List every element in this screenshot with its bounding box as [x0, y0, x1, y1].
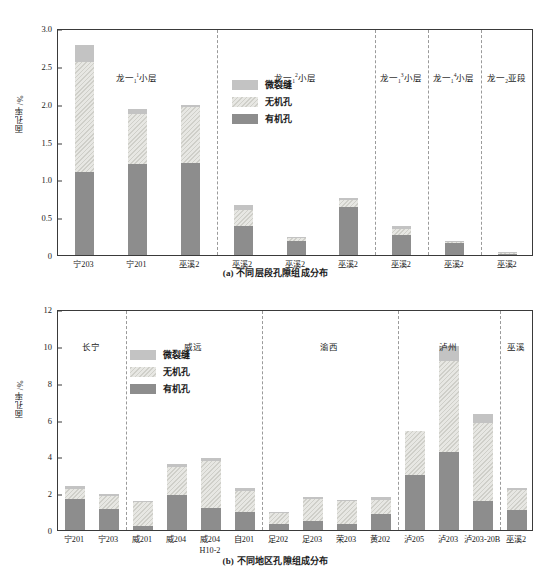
bar-segment-organic	[303, 521, 323, 530]
x-tick-label-line1: 黄202	[370, 535, 390, 544]
group-label-suffix: 亚段	[508, 73, 526, 83]
bar-segment-organic	[498, 254, 517, 256]
bar-巫溪2	[234, 205, 253, 255]
bar-宁203	[75, 45, 94, 255]
bar-segment-microfracture	[371, 497, 391, 500]
x-tick-label: 荣203	[336, 535, 356, 546]
bar-segment-inorganic	[371, 500, 391, 515]
figure-b: 面孔率/% 024681012 (b) 不同地区孔隙组成分布 宁201宁203威…	[0, 292, 551, 586]
y-tick-label: 12	[44, 305, 58, 315]
bar-segment-inorganic	[498, 253, 517, 254]
group-label-suffix: 小层	[139, 73, 157, 83]
group-label: 龙一14小层	[433, 71, 475, 83]
y-tick-label: 10	[44, 342, 58, 352]
bar-威204 H10-2	[201, 458, 221, 530]
bar-segment-microfracture	[133, 501, 153, 502]
bar-segment-microfracture	[507, 488, 527, 491]
group-label-subscript: 1	[134, 78, 137, 84]
x-tick-label: 巫溪2	[285, 260, 305, 271]
x-tick-label-line1: 自201	[234, 535, 254, 544]
bar-威201	[133, 501, 153, 530]
bar-segment-inorganic	[269, 513, 289, 524]
bar-巫溪2	[287, 237, 306, 255]
bar-segment-microfracture	[337, 500, 357, 502]
bar-segment-microfracture	[128, 109, 147, 114]
x-tick-label: 巫溪2	[444, 260, 464, 271]
bar-segment-inorganic	[201, 461, 221, 508]
x-tick-label: 黄202	[370, 535, 390, 546]
bar-segment-organic	[128, 164, 147, 255]
group-divider	[481, 30, 482, 255]
bar-巫溪2	[498, 252, 517, 255]
x-tick-label-line1: 泸203	[438, 535, 458, 544]
y-tick-mark	[58, 219, 62, 220]
x-tick-label: 巫溪2	[232, 260, 252, 271]
bar-segment-inorganic	[65, 489, 85, 499]
group-divider	[398, 311, 399, 530]
group-label-superscript: 3	[401, 72, 404, 78]
y-tick-label: 0	[48, 251, 57, 261]
group-label-subscript: 1	[451, 78, 454, 84]
bar-segment-microfracture	[234, 205, 253, 210]
y-tick-mark	[58, 30, 62, 31]
x-tick-label-line1: 足202	[268, 535, 288, 544]
legend: 微裂缝无机孔有机孔	[130, 348, 190, 399]
group-label-superscript: 4	[454, 72, 457, 78]
bar-宁201	[65, 486, 85, 530]
bar-足203	[303, 497, 323, 530]
y-tick-mark	[58, 67, 62, 68]
bar-宁203	[99, 494, 119, 530]
legend-item-frac: 微裂缝	[232, 78, 292, 91]
plot-area-b: 024681012	[57, 310, 533, 531]
group-label-suffix: 小层	[456, 73, 474, 83]
figure-a: 面孔率/% 00.51.01.52.02.53.0 (a) 不同层段孔隙组成分布…	[0, 0, 551, 292]
bar-segment-microfracture	[75, 45, 94, 62]
x-tick-label-line1: 泸203-20B	[464, 535, 501, 544]
bar-segment-inorganic	[128, 114, 147, 165]
legend-item-org: 有机孔	[130, 382, 190, 395]
group-label-subscript: 2	[505, 78, 508, 84]
legend-item-inorg: 无机孔	[232, 95, 292, 108]
bar-segment-inorganic	[392, 229, 411, 235]
bar-segment-microfracture	[65, 486, 85, 489]
x-tick-label-line1: 威204	[166, 535, 186, 544]
x-tick-label: 巫溪2	[506, 535, 526, 546]
x-tick-label: 宁203	[73, 260, 93, 271]
bar-segment-microfracture	[445, 241, 464, 242]
y-axis-label-b: 面孔率/%	[14, 380, 26, 418]
legend-swatch-org	[232, 114, 258, 124]
plot-area-a: 00.51.01.52.02.53.0	[57, 29, 533, 256]
y-tick-mark	[58, 311, 62, 312]
bar-segment-microfracture	[167, 464, 187, 467]
bar-巫溪2	[507, 488, 527, 530]
bar-segment-inorganic	[405, 431, 425, 474]
y-tick-mark	[58, 143, 62, 144]
x-tick-label-line1: 威201	[132, 535, 152, 544]
bar-segment-organic	[235, 512, 255, 530]
bar-足202	[269, 512, 289, 530]
y-tick-mark	[58, 458, 62, 459]
group-label-suffix: 小层	[298, 73, 316, 83]
y-tick-label: 0.5	[41, 213, 57, 223]
group-label: 龙一13小层	[380, 71, 422, 83]
bar-segment-inorganic	[99, 496, 119, 509]
x-tick-label-line1: 足203	[302, 535, 322, 544]
legend-label-frac: 微裂缝	[163, 348, 190, 361]
plot-frame-a	[57, 29, 533, 256]
group-label-prefix: 龙一	[380, 73, 398, 83]
y-axis-label-a: 面孔率/%	[14, 95, 26, 133]
x-tick-label: 自201	[234, 535, 254, 546]
y-tick-label: 4	[48, 452, 57, 462]
bar-宁201	[128, 109, 147, 255]
bar-segment-organic	[371, 514, 391, 530]
x-tick-label: 威204H10-2	[200, 535, 221, 556]
x-tick-label-line1: 宁203	[98, 535, 118, 544]
y-tick-label: 0	[48, 526, 57, 536]
bar-黄202	[371, 497, 391, 530]
bar-segment-inorganic	[507, 490, 527, 509]
bar-泸205	[405, 431, 425, 530]
figure-caption-b: (b) 不同地区孔隙组成分布	[0, 554, 551, 567]
legend-item-frac: 微裂缝	[130, 348, 190, 361]
bar-segment-organic	[269, 524, 289, 530]
x-tick-label: 泸203	[438, 535, 458, 546]
